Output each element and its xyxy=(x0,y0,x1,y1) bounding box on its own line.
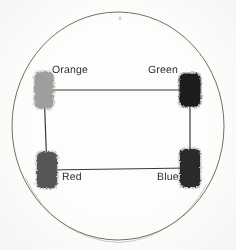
node-label-red: Red xyxy=(62,172,82,183)
node-label-blue: Blue xyxy=(157,172,179,183)
figure-canvas: Orange Green Red Blue xyxy=(0,0,236,250)
specimen-blob-green xyxy=(178,72,202,108)
connector-edges xyxy=(44,90,190,170)
specimen-blob-blue xyxy=(179,148,202,189)
edge-blue-to-red xyxy=(47,168,190,170)
diagram-svg xyxy=(0,0,236,250)
specimen-blob-red xyxy=(36,151,59,190)
node-label-green: Green xyxy=(148,65,178,76)
plate-outline xyxy=(12,12,224,243)
specimen-blob-orange xyxy=(33,70,55,110)
node-label-orange: Orange xyxy=(52,65,88,76)
top-tick-icon xyxy=(119,17,122,21)
